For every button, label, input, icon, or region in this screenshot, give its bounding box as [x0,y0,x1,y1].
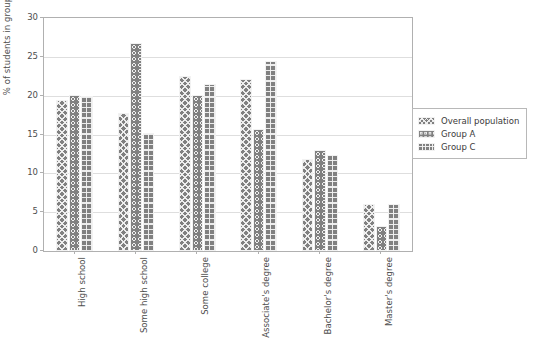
x-tick-mark [380,251,381,254]
x-tick-label: Some high school [139,257,149,333]
legend-item[interactable]: Overall population [418,114,520,127]
gridline [44,212,412,213]
legend-swatch-icon [418,143,435,151]
bar [388,204,400,251]
legend-item[interactable]: Group C [418,140,520,153]
bar-chart-figure: % of students in group 051015202530 High… [0,0,536,344]
legend-label: Group C [441,142,476,152]
y-tick-label: 0 [8,245,38,255]
bar [376,226,388,251]
y-tick-label: 10 [8,167,38,177]
x-tick-label: Master's degree [384,257,394,326]
legend-item[interactable]: Group A [418,127,520,140]
y-tick-label: 20 [8,90,38,100]
bar [302,159,314,251]
plot-inner [44,18,412,251]
y-tick-label: 5 [8,206,38,216]
bar [69,95,81,251]
bar [265,61,277,251]
x-tick-label: Bachelor's degree [323,257,333,335]
gridline [44,173,412,174]
bar [253,129,265,251]
y-tick-label: 25 [8,51,38,61]
bar [130,43,142,251]
y-tick-label: 30 [8,12,38,22]
bar [327,155,339,251]
bar [179,76,191,251]
x-tick-mark [319,251,320,254]
legend-swatch-icon [418,117,435,125]
bar [314,150,326,251]
gridline [44,96,412,97]
x-tick-label: Some college [200,257,210,315]
bar [363,204,375,251]
chart-legend[interactable]: Overall populationGroup AGroup C [412,108,527,159]
x-tick-label: High school [77,257,87,307]
x-tick-mark [196,251,197,254]
legend-swatch-icon [418,130,435,138]
x-tick-label: Associate's degree [261,257,271,338]
plot-area [43,17,413,252]
bar [56,100,68,251]
gridline [44,57,412,58]
x-tick-mark [258,251,259,254]
gridline [44,135,412,136]
bar [118,113,130,251]
bar [81,96,93,251]
bar [192,95,204,251]
x-tick-mark [135,251,136,254]
bar [143,133,155,251]
legend-label: Overall population [441,116,519,126]
bar [240,79,252,251]
bar [204,84,216,251]
legend-label: Group A [441,129,475,139]
y-tick-label: 15 [8,129,38,139]
x-tick-mark [74,251,75,254]
